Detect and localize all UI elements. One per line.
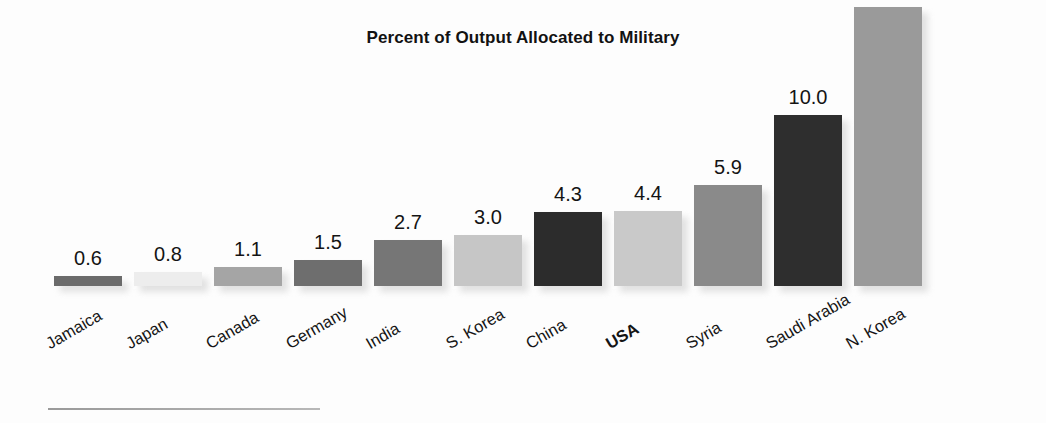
bar-category-label: Jamaica [43,306,106,353]
bar-category-label: USA [603,319,643,353]
bar[interactable] [134,272,202,286]
bar-fill [694,185,762,286]
bar-category-label: Japan [123,314,171,353]
bar-value-label: 10.0 [768,86,848,109]
bar-category-label: Germany [283,303,351,353]
bar-value-label: 0.6 [48,247,128,270]
bar[interactable] [294,260,362,286]
bar-fill [54,276,122,286]
bar[interactable] [854,7,922,286]
bar-fill [294,260,362,286]
bar-value-label: 1.5 [288,231,368,254]
bar-value-label: 2.7 [368,211,448,234]
bar[interactable] [774,115,842,286]
bar-fill [774,115,842,286]
footer-divider [48,408,320,410]
bar-fill [134,272,202,286]
bar-value-label: 5.9 [688,156,768,179]
bar-value-label: 4.3 [528,183,608,206]
bar-category-label: China [523,315,570,353]
bar-category-label: S. Korea [443,304,508,353]
bar-fill [454,235,522,286]
bar-value-label: 0.8 [128,243,208,266]
bar-chart-plot-area: 0.6Jamaica0.8Japan1.1Canada1.5Germany2.7… [0,0,1046,423]
bar[interactable] [454,235,522,286]
bar[interactable] [534,212,602,286]
bar-category-label: India [363,319,403,353]
bar[interactable] [614,211,682,286]
bar-category-label: Canada [203,308,263,353]
bar-category-label: Saudi Arabia [763,290,854,353]
bar-category-label: Syria [683,318,725,353]
bar[interactable] [214,267,282,286]
bar[interactable] [374,240,442,286]
bar[interactable] [54,276,122,286]
bar-fill [614,211,682,286]
bar-category-label: N. Korea [843,304,909,353]
bar-value-label: 3.0 [448,206,528,229]
bar-fill [214,267,282,286]
bar-value-label: 16.3 [848,0,928,1]
bar-fill [854,7,922,286]
bar-value-label: 4.4 [608,182,688,205]
bar[interactable] [694,185,762,286]
bar-fill [374,240,442,286]
bar-fill [534,212,602,286]
bar-value-label: 1.1 [208,238,288,261]
chart-figure: Percent of Output Allocated to Military … [0,0,1046,423]
